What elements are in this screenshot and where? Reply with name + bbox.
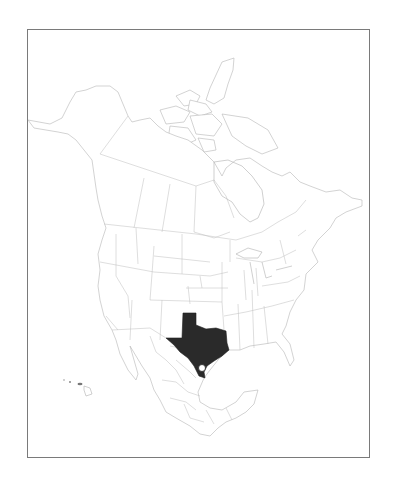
hawaii-islands [63,379,92,396]
north-america-map [0,0,397,490]
location-marker [199,365,206,372]
